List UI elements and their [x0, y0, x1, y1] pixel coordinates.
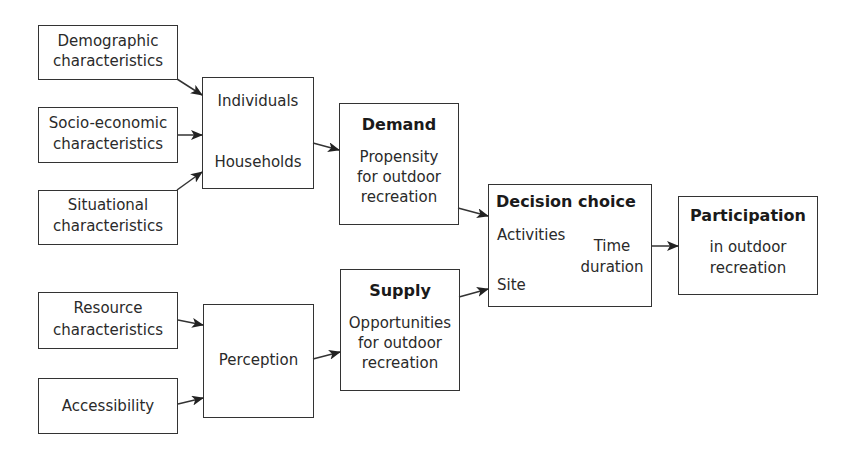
individuals-label: Individuals — [202, 92, 314, 111]
demographic-line2: characteristics — [38, 52, 178, 71]
arrow-supply-to-decision — [459, 289, 488, 297]
demand-line3: recreation — [339, 188, 459, 207]
arrow-accessibility-to-perception — [178, 398, 203, 404]
decision-activities: Activities — [497, 226, 565, 245]
arrow-demand-to-decision — [458, 208, 488, 216]
situational-line2: characteristics — [38, 217, 178, 236]
households-label: Households — [202, 153, 314, 172]
decision-time: Time — [574, 237, 650, 256]
participation-title: Participation — [678, 206, 818, 225]
perception-label: Perception — [203, 351, 314, 370]
demand-title: Demand — [339, 115, 459, 134]
arrow-situational-to-individuals — [177, 172, 202, 190]
decision-site: Site — [497, 276, 526, 295]
decision-duration: duration — [574, 258, 650, 277]
demand-line2: for outdoor — [339, 168, 459, 187]
demand-line1: Propensity — [339, 148, 459, 167]
supply-line3: recreation — [340, 354, 460, 373]
supply-title: Supply — [340, 281, 460, 300]
supply-line2: for outdoor — [340, 334, 460, 353]
participation-line1: in outdoor — [678, 238, 818, 257]
arrow-households-to-demand — [313, 143, 339, 150]
participation-line2: recreation — [678, 259, 818, 278]
supply-line1: Opportunities — [340, 314, 460, 333]
accessibility-label: Accessibility — [38, 397, 178, 416]
decision-title: Decision choice — [496, 192, 636, 211]
resource-line2: characteristics — [38, 321, 178, 340]
demographic-line1: Demographic — [38, 32, 178, 51]
arrow-demographic-to-individuals — [177, 79, 202, 95]
resource-line1: Resource — [38, 299, 178, 318]
situational-line1: Situational — [38, 196, 178, 215]
socio-economic-line1: Socio-economic — [38, 114, 178, 133]
arrow-perception-to-supply — [313, 352, 340, 359]
socio-economic-line2: characteristics — [38, 135, 178, 154]
arrow-resource-to-perception — [178, 320, 203, 325]
